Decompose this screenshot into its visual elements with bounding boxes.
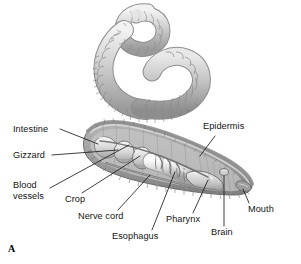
panel-letter-a: A <box>8 243 15 254</box>
label-pharynx: Pharynx <box>166 214 200 225</box>
label-intestine: Intestine <box>13 124 48 135</box>
label-crop: Crop <box>65 194 85 205</box>
label-gizzard: Gizzard <box>13 150 45 161</box>
label-brain: Brain <box>211 227 233 238</box>
label-mouth: Mouth <box>248 204 274 215</box>
label-blood-vessels-line2: vessels <box>13 191 44 202</box>
label-esophagus: Esophagus <box>112 231 158 242</box>
label-blood-vessels-line1: Blood <box>13 180 37 191</box>
posterior-coiled-body <box>93 9 201 123</box>
label-epidermis: Epidermis <box>203 121 244 132</box>
label-nerve-cord: Nerve cord <box>78 211 123 222</box>
earthworm-anatomy-figure: Intestine Gizzard Blood vessels Crop Ner… <box>0 0 301 264</box>
